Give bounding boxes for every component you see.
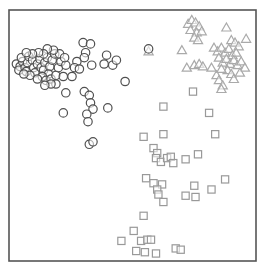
- square-point: [222, 176, 229, 183]
- circle-point: [144, 45, 152, 53]
- square-point: [140, 133, 147, 140]
- circle-point: [86, 40, 94, 48]
- circle-point: [112, 56, 120, 64]
- scatter-chart: [0, 0, 265, 271]
- circle-point: [102, 51, 110, 59]
- square-point: [206, 109, 213, 116]
- square-point: [160, 103, 167, 110]
- square-point: [143, 175, 150, 182]
- circle-point: [60, 54, 68, 62]
- circle-point: [84, 118, 92, 126]
- circle-point: [88, 61, 96, 69]
- circle-point: [85, 91, 93, 99]
- square-point: [152, 250, 159, 257]
- circle-point: [59, 109, 67, 117]
- square-point: [170, 160, 177, 167]
- square-point: [189, 88, 196, 95]
- circle-point: [121, 77, 129, 85]
- circle-point: [20, 70, 28, 78]
- square-point: [140, 212, 147, 219]
- square-point: [160, 198, 167, 205]
- circle-point: [59, 72, 67, 80]
- circle-point: [62, 89, 70, 97]
- square-point: [133, 247, 140, 254]
- square-point: [192, 193, 199, 200]
- circle-point: [100, 60, 108, 68]
- circle-point: [41, 81, 49, 89]
- square-point: [118, 237, 125, 244]
- square-point: [212, 131, 219, 138]
- square-point: [130, 227, 137, 234]
- square-point: [155, 191, 162, 198]
- square-point: [191, 182, 198, 189]
- square-point: [147, 236, 154, 243]
- square-point: [208, 186, 215, 193]
- square-point: [177, 246, 184, 253]
- square-point: [182, 192, 189, 199]
- circle-point: [80, 54, 88, 62]
- circle-point: [104, 104, 112, 112]
- circle-point: [75, 65, 83, 73]
- circle-point: [33, 75, 41, 83]
- circle-point: [89, 138, 97, 146]
- square-point: [182, 156, 189, 163]
- circle-point: [68, 72, 76, 80]
- square-point: [194, 151, 201, 158]
- circle-point: [22, 49, 30, 57]
- square-point: [160, 131, 167, 138]
- square-point: [141, 249, 148, 256]
